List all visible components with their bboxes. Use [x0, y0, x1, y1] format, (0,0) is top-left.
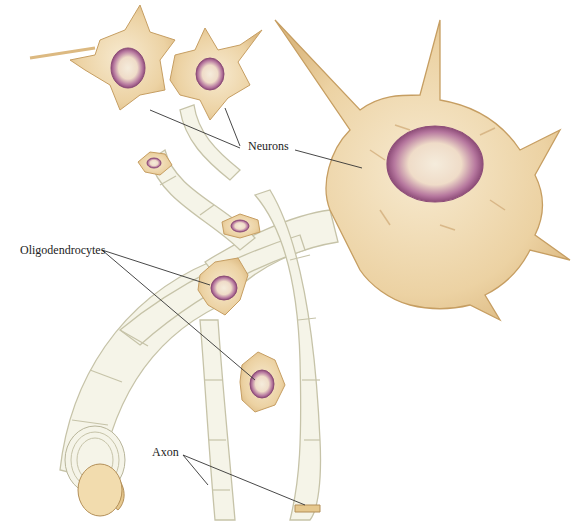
large-neuron [275, 20, 570, 320]
oligodendrocyte-low [240, 352, 285, 412]
label-axon: Axon [152, 445, 179, 460]
illustration [0, 0, 573, 526]
label-neurons: Neurons [248, 139, 289, 154]
small-neuron-2 [170, 28, 262, 120]
axon-cut-end [65, 426, 125, 516]
label-oligodendrocytes: Oligodendrocytes [20, 243, 105, 258]
small-neuron-1 [70, 5, 175, 110]
